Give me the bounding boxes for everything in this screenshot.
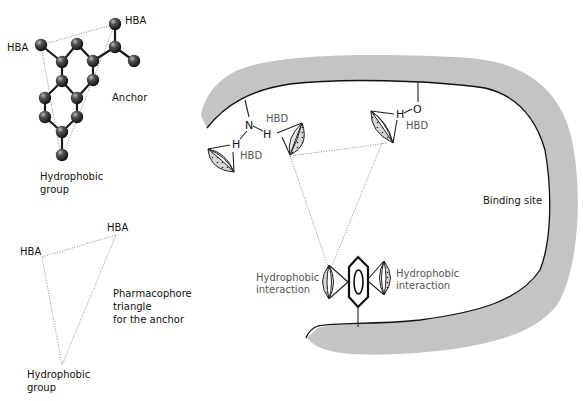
triangle-hydrophobic-label-line1: Hydrophobic <box>27 369 90 380</box>
anchor-molecule <box>35 18 140 161</box>
atom <box>56 56 68 68</box>
triangle-caption-line2: triangle <box>113 301 152 312</box>
pharmacophore-diagram: Binding site N H H HBD HBD O H HBD <box>0 0 583 401</box>
n-h-bond-right <box>253 126 263 131</box>
atom-hydrophobic <box>56 149 68 161</box>
atom <box>87 74 99 86</box>
hydrophobic-interaction-right-line1: Hydrophobic <box>396 268 459 279</box>
amine-hydrogen-right: H <box>263 128 271 141</box>
atom <box>71 38 83 50</box>
hydroxyl-group: O H HBD <box>396 82 428 131</box>
molecule-atoms <box>35 18 140 161</box>
atom <box>71 92 83 104</box>
binding-site-pharmacophore-triangle <box>290 143 388 266</box>
hbd-label-lower: HBD <box>240 150 262 161</box>
aromatic-ring-group <box>323 257 391 327</box>
hydrophobic-interaction-left-line1: Hydrophobic <box>256 272 319 283</box>
hydroxyl-oxygen: O <box>413 103 422 116</box>
hydrophobic-interaction-right-line2: interaction <box>396 280 450 291</box>
atom <box>39 92 51 104</box>
atom-hba-top <box>109 18 121 30</box>
amine-group: N H H HBD HBD <box>232 100 288 161</box>
triangle-hba-right-label: HBA <box>107 222 128 233</box>
atom <box>109 41 121 53</box>
anchor-label: Anchor <box>112 92 148 103</box>
molecule-hydrophobic-label-line2: group <box>40 184 69 195</box>
amine-stem-bond <box>245 100 249 117</box>
atom <box>56 75 68 87</box>
molecule-hba-top-label: HBA <box>125 15 146 26</box>
hbd-cone-middle <box>277 123 304 155</box>
molecule-hba-left-label: HBA <box>7 42 28 53</box>
molecule-hydrophobic-label-line1: Hydrophobic <box>40 171 103 182</box>
o-h-bond <box>404 109 412 113</box>
binding-site-inner-rim-top <box>207 81 550 270</box>
atom <box>56 126 68 138</box>
binding-site-label: Binding site <box>483 195 542 206</box>
triangle-caption-line1: Pharmacophore <box>113 288 192 299</box>
atom-hba-left <box>35 39 47 51</box>
pharmacophore-triangle <box>42 235 116 365</box>
atom <box>87 55 99 67</box>
hbd-cone-right <box>371 111 397 143</box>
atom <box>39 111 51 123</box>
aromatic-ring-hexagon <box>349 257 368 307</box>
n-h-bond-left <box>240 131 247 139</box>
hbd-cone-left <box>208 145 234 172</box>
amine-nitrogen: N <box>245 119 253 132</box>
atom <box>71 111 83 123</box>
triangle-hydrophobic-label-line2: group <box>27 382 56 393</box>
triangle-caption-line3: for the anchor <box>113 314 185 325</box>
hbd-label-hydroxyl: HBD <box>406 120 428 131</box>
hydrophobic-lens-right <box>369 261 391 295</box>
atom <box>128 55 140 67</box>
triangle-hba-left-label: HBA <box>20 246 41 257</box>
hydroxyl-hydrogen: H <box>396 108 404 121</box>
hydrophobic-lens-left <box>323 265 349 299</box>
hydrophobic-interaction-left-line2: interaction <box>256 284 310 295</box>
hbd-label-upper: HBD <box>266 113 288 124</box>
